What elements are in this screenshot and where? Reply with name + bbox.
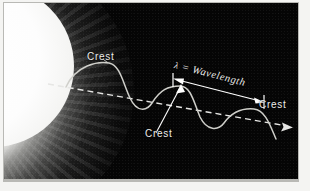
crest-label-bottom: Crest (145, 128, 172, 139)
crest-label-top: Crest (87, 51, 114, 62)
crest-bottom-leader-line (156, 88, 180, 133)
diagram-vector-overlay (4, 3, 298, 179)
crest-label-right: Crest (259, 99, 286, 110)
wavelength-measure-arrow (178, 80, 260, 101)
wave-diagram-image: Crest Crest Crest λ = Wavelength (4, 3, 298, 179)
figure-page: Crest Crest Crest λ = Wavelength (0, 0, 310, 191)
propagation-axis-dashed-line (48, 84, 287, 126)
propagation-direction-arrowhead (281, 123, 293, 132)
wavelength-arrowhead-left (173, 79, 184, 85)
